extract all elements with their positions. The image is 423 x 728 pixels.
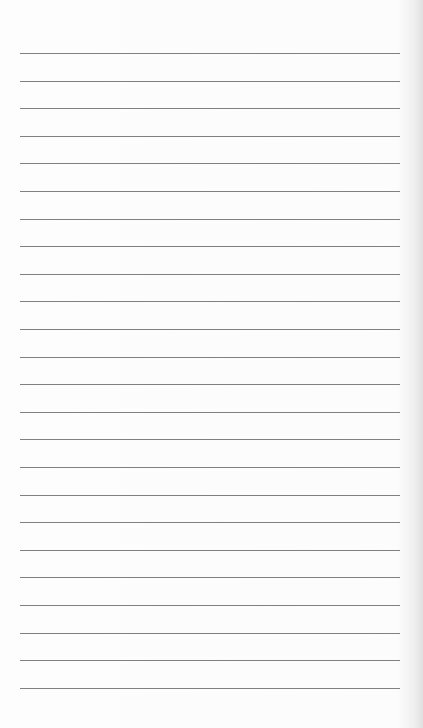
rule-line (20, 522, 400, 523)
rule-line (20, 53, 400, 54)
rule-line (20, 81, 400, 82)
rule-line (20, 495, 400, 496)
rule-line (20, 108, 400, 109)
rule-line (20, 605, 400, 606)
rule-line (20, 163, 400, 164)
rule-line (20, 357, 400, 358)
rule-line (20, 274, 400, 275)
rule-line (20, 577, 400, 578)
rule-line (20, 660, 400, 661)
page-edge-shadow (413, 0, 423, 728)
rule-line (20, 439, 400, 440)
rule-line (20, 412, 400, 413)
rule-line (20, 301, 400, 302)
rule-line (20, 688, 400, 689)
rule-line (20, 219, 400, 220)
rule-line (20, 329, 400, 330)
rule-line (20, 384, 400, 385)
rule-line (20, 191, 400, 192)
lined-paper-page (0, 0, 423, 728)
ruled-lines-area (20, 0, 400, 728)
rule-line (20, 467, 400, 468)
rule-line (20, 633, 400, 634)
rule-line (20, 550, 400, 551)
rule-line (20, 246, 400, 247)
rule-line (20, 136, 400, 137)
